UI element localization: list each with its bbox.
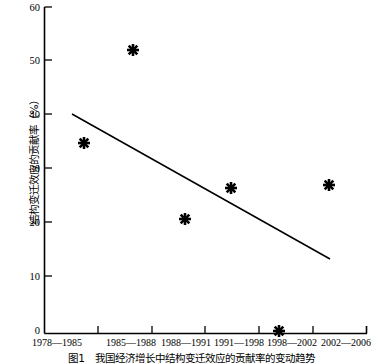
y-axis-ticks — [45, 7, 53, 276]
x-tick-label: 1978—1985 — [18, 337, 96, 349]
x-tick-label: 2002—2006 — [307, 337, 383, 349]
data-point — [127, 44, 139, 56]
data-point — [78, 137, 90, 149]
trend-line — [72, 114, 330, 259]
data-point — [323, 179, 335, 191]
data-point — [273, 325, 285, 337]
data-point — [225, 182, 237, 194]
figure-caption: 图1 我国经济增长中结构变迁效应的贡献率的变动趋势 — [0, 352, 383, 364]
data-point — [179, 213, 191, 225]
data-point-markers — [78, 44, 335, 337]
x-axis-tick-labels: 1978—1985 1985—1988 1988—1991 1991—1998 … — [0, 337, 383, 353]
